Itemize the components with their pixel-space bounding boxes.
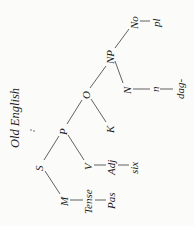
syntax-tree-diagram: Old English S P O NP No <box>0 0 194 226</box>
edge-o-k <box>91 99 106 122</box>
node-no: No <box>128 16 140 30</box>
edge-np-n <box>115 61 123 83</box>
node-n-lower: n <box>149 86 161 92</box>
node-dag: dag- <box>174 79 186 100</box>
node-s: S <box>33 165 45 171</box>
edge-p-v <box>68 135 84 160</box>
node-six: six <box>128 162 140 174</box>
tree-labels: S P O NP No pl N n dag- K V Adj six M Te… <box>33 16 186 214</box>
edge-np-no <box>115 29 129 48</box>
node-m: M <box>58 196 70 207</box>
edge-o-np <box>90 66 106 88</box>
node-o: O <box>80 91 92 99</box>
node-tense: Tense <box>82 189 94 214</box>
diagram-title: Old English <box>8 88 22 148</box>
node-n-upper: N <box>121 86 133 95</box>
node-p: P <box>57 128 69 136</box>
edge-s-p <box>44 136 59 160</box>
node-v: V <box>82 162 94 170</box>
node-k: K <box>104 125 116 134</box>
node-np: NP <box>104 50 116 65</box>
node-pl: pl <box>150 18 162 28</box>
edge-p-o <box>67 100 82 124</box>
edge-s-m <box>45 171 60 194</box>
node-pas: Pas <box>105 193 117 211</box>
node-adj: Adj <box>105 160 117 176</box>
dot-mark <box>30 129 34 131</box>
